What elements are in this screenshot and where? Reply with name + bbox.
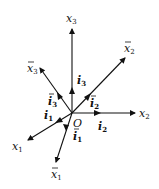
xbar3-label: x3 [27,62,38,76]
x3-label: x3 [66,12,77,26]
i3-arrowhead [69,87,75,94]
ibar3-label: i3 [48,95,57,109]
i3-label: i3 [77,74,86,88]
xbar2-label: x2 [124,42,135,56]
ibar2-label: i2 [90,97,99,111]
x1-label: x1 [12,140,23,154]
ibar1-arrowhead [63,124,69,131]
origin-label: O [73,117,82,130]
coordinate-diagram: x3 x2 x3 x2 x1 x1 O i3 i2 i3 i1 i2 i1 [0,0,159,189]
x2-label: x2 [139,107,150,121]
i2-label: i2 [98,120,107,134]
i1-arrowhead [55,117,63,123]
xbar1-label: x1 [51,168,62,182]
i1-label: i1 [44,109,53,123]
ibar1-label: i1 [73,130,82,144]
